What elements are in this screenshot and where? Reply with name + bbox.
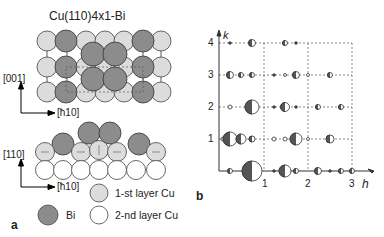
y-tick-4: 4 bbox=[208, 38, 214, 48]
side-axis-vertical-label: [110] bbox=[3, 150, 25, 160]
legend-bi-swatch bbox=[38, 205, 58, 225]
x-tick-2: 2 bbox=[305, 179, 311, 189]
side-view-second-layer bbox=[36, 161, 166, 180]
legend-second-layer-swatch bbox=[90, 206, 108, 224]
top-axis-vertical-label: [001] bbox=[3, 74, 25, 84]
panel-b-label: b bbox=[196, 190, 203, 202]
structure-model-svg bbox=[0, 0, 384, 237]
x-tick-3: 3 bbox=[349, 179, 355, 189]
diffraction-spots bbox=[221, 40, 355, 182]
legend-first-layer-label: 1-st layer Cu bbox=[115, 188, 175, 199]
legend-second-layer-label: 2-nd layer Cu bbox=[115, 210, 178, 221]
y-tick-1: 1 bbox=[208, 134, 214, 144]
panel-a-label: a bbox=[11, 219, 18, 231]
top-axis-horizontal-label: [ħ10] bbox=[57, 108, 79, 118]
side-axis-horizontal-label: [ħ10] bbox=[57, 182, 79, 192]
x-axis-label: h bbox=[362, 178, 369, 190]
b-axes bbox=[217, 30, 374, 173]
y-tick-2: 2 bbox=[208, 102, 214, 112]
y-axis-label: k bbox=[223, 30, 229, 41]
x-tick-1: 1 bbox=[262, 179, 268, 189]
y-tick-3: 3 bbox=[208, 70, 214, 80]
legend-first-layer-swatch bbox=[90, 184, 108, 202]
legend-bi-label: Bi bbox=[66, 210, 75, 221]
